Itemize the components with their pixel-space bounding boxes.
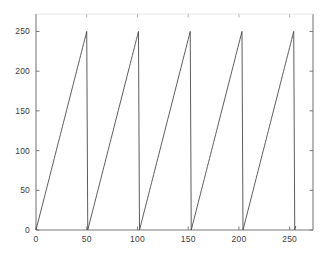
y-tick-label-0: 0 [2,225,30,235]
axes-box [36,14,313,230]
x-tick-label-50: 50 [82,234,92,244]
x-tick-label-250: 250 [282,234,297,244]
data-series-sawtooth [36,31,296,230]
figure-canvas: 050100150200250 050100150200250 [0,0,333,259]
tick-marks [36,14,313,230]
y-tick-label-250: 250 [2,26,30,36]
x-tick-label-150: 150 [181,234,196,244]
x-tick-label-200: 200 [232,234,247,244]
sawtooth-line [36,31,296,230]
x-tick-label-100: 100 [130,234,145,244]
y-tick-label-150: 150 [2,106,30,116]
x-tick-label-0: 0 [34,234,39,244]
plot-svg [0,0,333,259]
y-tick-label-200: 200 [2,66,30,76]
y-tick-label-100: 100 [2,146,30,156]
y-tick-label-50: 50 [2,185,30,195]
